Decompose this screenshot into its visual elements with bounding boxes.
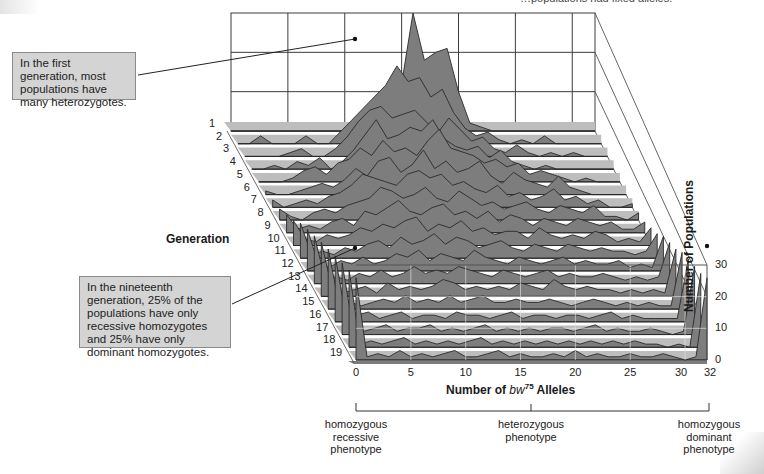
x-axis-title-prefix: Number of: [446, 383, 509, 397]
phenotype-bracket: [356, 403, 709, 411]
x-tick: 32: [704, 366, 716, 378]
generation-tick: 7: [251, 193, 257, 205]
x-axis-title-suffix: Alleles: [534, 383, 576, 397]
generation-tick: 11: [274, 244, 285, 256]
x-tick: 5: [408, 366, 414, 378]
generation-tick: 9: [265, 219, 271, 231]
x-tick: 15: [514, 366, 526, 378]
x-tick: 10: [460, 366, 472, 378]
phenotype-recessive-label: homozygous recessive phenotype: [321, 418, 391, 456]
page-corner-shade: [720, 432, 764, 474]
generation-tick: 1: [209, 117, 215, 129]
y-tick: 10: [715, 321, 727, 333]
generation-tick: 17: [316, 321, 328, 333]
generation-tick: 12: [281, 257, 293, 269]
x-axis-title: Number of bw75 Alleles: [446, 382, 575, 397]
generation-tick: 15: [302, 295, 314, 307]
generation-tick: 13: [288, 270, 300, 282]
generation-tick: 14: [295, 282, 307, 294]
x-tick: 25: [624, 366, 636, 378]
callout-first-generation: In the first generation, most population…: [12, 52, 136, 100]
generation-tick: 8: [258, 206, 264, 218]
generation-tick: 5: [237, 168, 243, 180]
generation-tick: 18: [323, 333, 335, 345]
x-tick: 0: [353, 366, 359, 378]
x-axis-title-gene: bw: [509, 383, 524, 397]
generation-tick: 3: [223, 142, 229, 154]
callout-nineteenth-generation: In the nineteenth generation, 25% of the…: [79, 276, 231, 348]
x-tick: 20: [569, 366, 581, 378]
y-tick: 30: [715, 258, 727, 270]
generation-tick: 4: [230, 155, 236, 167]
generation-tick: 2: [216, 130, 222, 142]
generation-axis-title: Generation: [166, 232, 229, 246]
generation-tick: 16: [309, 308, 321, 320]
x-axis-title-sup: 75: [525, 382, 534, 391]
generation-tick: 19: [330, 346, 342, 358]
x-tick: 30: [675, 366, 687, 378]
generation-tick: 10: [268, 232, 280, 244]
phenotype-heterozygous-label: heterozygous phenotype: [491, 418, 571, 443]
y-tick: 0: [715, 353, 721, 365]
y-axis-title: Number of Populations: [682, 182, 696, 312]
generation-tick: 6: [244, 181, 250, 193]
y-tick: 20: [715, 290, 727, 302]
